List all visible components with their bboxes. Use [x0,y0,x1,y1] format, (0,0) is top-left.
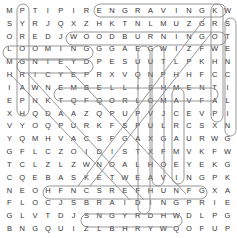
grid-cell[interactable]: N [183,4,196,17]
grid-cell[interactable]: Q [16,171,29,184]
grid-cell[interactable]: G [16,55,29,68]
grid-cell[interactable]: R [131,209,144,222]
grid-cell[interactable]: T [157,55,170,68]
grid-cell[interactable]: T [29,4,42,17]
grid-cell[interactable]: M [29,132,42,145]
grid-cell[interactable]: P [80,68,93,81]
grid-cell[interactable]: E [29,30,42,43]
grid-cell[interactable]: A [144,4,157,17]
grid-cell[interactable]: T [131,145,144,158]
grid-cell[interactable]: F [157,145,170,158]
grid-cell[interactable]: J [157,107,170,120]
grid-cell[interactable]: I [29,68,42,81]
grid-cell[interactable]: J [41,17,54,30]
grid-cell[interactable]: R [16,68,29,81]
grid-cell[interactable]: D [144,209,157,222]
grid-cell[interactable]: W [157,42,170,55]
grid-cell[interactable]: R [16,30,29,43]
grid-cell[interactable]: D [41,107,54,120]
grid-cell[interactable]: O [208,30,221,43]
grid-cell[interactable]: T [3,158,16,171]
grid-cell[interactable]: L [157,119,170,132]
grid-cell[interactable]: O [93,30,106,43]
grid-cell[interactable]: G [93,42,106,55]
grid-cell[interactable]: C [183,119,196,132]
grid-cell[interactable]: Q [93,107,106,120]
grid-cell[interactable]: G [118,4,131,17]
grid-cell[interactable]: Y [183,158,196,171]
grid-cell[interactable]: S [118,55,131,68]
grid-cell[interactable]: S [67,171,80,184]
grid-cell[interactable]: H [93,17,106,30]
grid-cell[interactable]: Y [3,132,16,145]
grid-cell[interactable]: Y [144,222,157,235]
grid-cell[interactable]: V [144,107,157,120]
grid-cell[interactable]: G [195,184,208,197]
grid-cell[interactable]: D [54,209,67,222]
grid-cell[interactable]: R [93,68,106,81]
grid-cell[interactable]: A [54,107,67,120]
grid-cell[interactable]: N [157,30,170,43]
grid-cell[interactable]: P [54,119,67,132]
grid-cell[interactable]: C [41,145,54,158]
grid-cell[interactable]: N [106,4,119,17]
grid-cell[interactable]: Z [80,17,93,30]
grid-cell[interactable]: V [195,107,208,120]
grid-cell[interactable]: R [118,94,131,107]
grid-cell[interactable]: G [144,42,157,55]
grid-cell[interactable]: M [67,81,80,94]
grid-cell[interactable]: W [118,171,131,184]
grid-cell[interactable]: G [195,30,208,43]
grid-cell[interactable]: L [16,209,29,222]
grid-cell[interactable]: A [131,132,144,145]
grid-cell[interactable]: P [106,107,119,120]
grid-cell[interactable]: U [170,17,183,30]
grid-cell[interactable]: E [183,81,196,94]
grid-cell[interactable]: O [183,222,196,235]
grid-cell[interactable]: I [170,4,183,17]
grid-cell[interactable]: V [3,119,16,132]
grid-cell[interactable]: W [208,132,221,145]
grid-cell[interactable]: T [54,94,67,107]
grid-cell[interactable]: L [106,81,119,94]
grid-cell[interactable]: I [67,4,80,17]
grid-cell[interactable]: F [195,222,208,235]
grid-cell[interactable]: I [80,145,93,158]
grid-cell[interactable]: N [29,55,42,68]
grid-cell[interactable]: R [93,196,106,209]
grid-cell[interactable]: E [54,81,67,94]
grid-cell[interactable]: U [144,55,157,68]
grid-cell[interactable]: D [93,145,106,158]
grid-cell[interactable]: D [41,30,54,43]
grid-cell[interactable]: Y [16,119,29,132]
grid-cell[interactable]: F [195,94,208,107]
grid-cell[interactable]: R [80,119,93,132]
grid-cell[interactable]: S [221,17,234,30]
grid-cell[interactable]: M [3,55,16,68]
grid-cell[interactable]: U [131,30,144,43]
grid-cell[interactable]: E [170,158,183,171]
grid-cell[interactable]: U [183,132,196,145]
grid-cell[interactable]: V [183,94,196,107]
grid-cell[interactable]: P [221,222,234,235]
grid-cell[interactable]: A [170,94,183,107]
grid-cell[interactable]: C [41,68,54,81]
grid-cell[interactable]: A [118,158,131,171]
grid-cell[interactable]: C [3,171,16,184]
grid-cell[interactable]: H [170,68,183,81]
grid-cell[interactable]: B [41,171,54,184]
grid-cell[interactable]: Z [54,145,67,158]
grid-cell[interactable]: S [195,119,208,132]
grid-cell[interactable]: N [131,17,144,30]
grid-cell[interactable]: A [170,132,183,145]
grid-cell[interactable]: O [29,196,42,209]
grid-cell[interactable]: C [221,68,234,81]
grid-cell[interactable]: S [93,184,106,197]
grid-cell[interactable]: R [80,4,93,17]
grid-cell[interactable]: N [16,222,29,235]
grid-cell[interactable]: W [170,209,183,222]
grid-cell[interactable]: G [3,145,16,158]
grid-cell[interactable]: E [106,55,119,68]
grid-cell[interactable]: E [93,171,106,184]
grid-cell[interactable]: X [144,132,157,145]
